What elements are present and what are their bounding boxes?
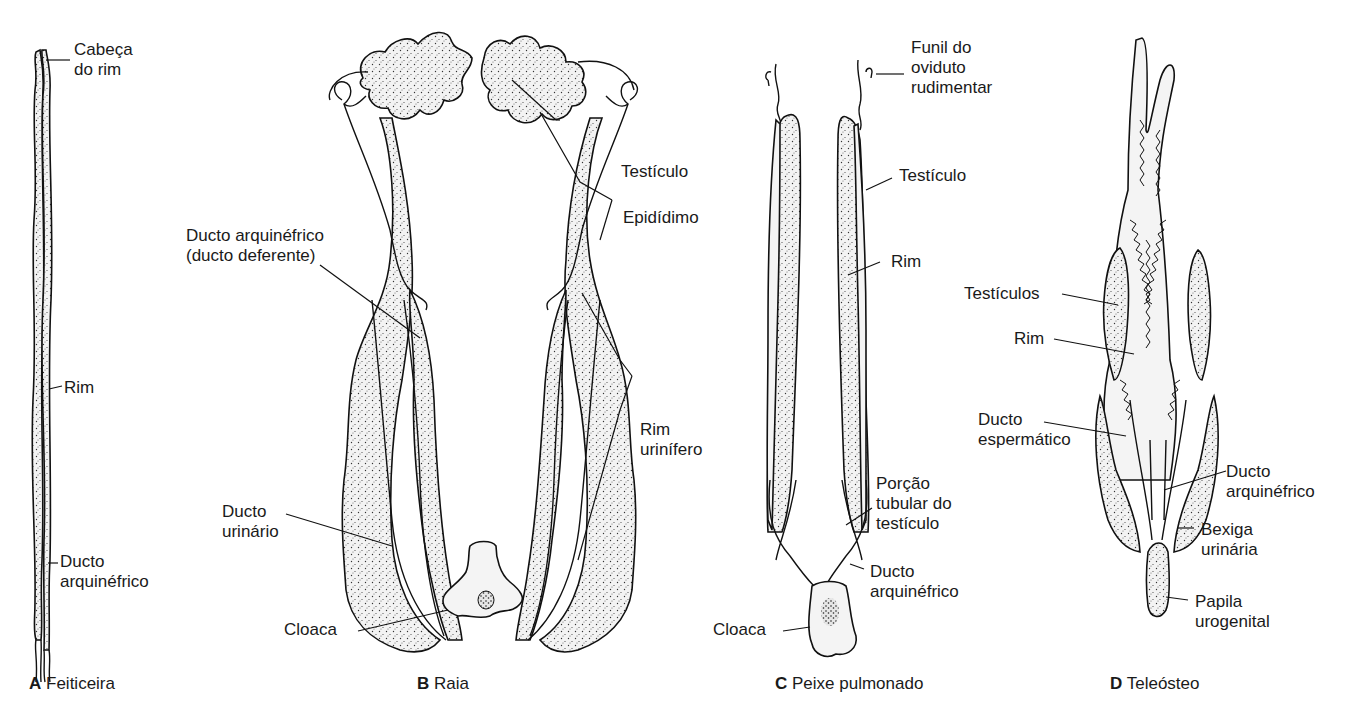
label-line: Cabeça: [74, 40, 133, 60]
label-line: Cloaca: [284, 620, 337, 640]
caption-c: C Peixe pulmonado: [775, 674, 923, 694]
label-line: tubular do: [876, 494, 952, 514]
label-line: Testículo: [899, 166, 966, 186]
label-line: Ducto: [60, 552, 149, 572]
caption-b: B Raia: [417, 674, 469, 694]
label-b-ducto-arquinefrico: Ducto arquinéfrico (ducto deferente): [186, 226, 324, 266]
lungfish-cloaca-opening: [821, 598, 839, 626]
ray-kidney-right-inner: [516, 290, 566, 640]
label-d-ducto-arquinefrico: Ducto arquinéfrico: [1226, 462, 1315, 502]
label-a-rim: Rim: [64, 378, 94, 398]
hagfish-kidney-right: [42, 50, 52, 650]
label-line: espermático: [978, 430, 1071, 450]
caption-a: A Feiticeira: [29, 674, 115, 694]
caption-d: D Teleósteo: [1110, 674, 1199, 694]
label-b-ducto-urinario: Ducto urinário: [222, 502, 279, 542]
label-line: Rim: [640, 420, 702, 440]
lungfish-oviduct-right: [858, 60, 861, 130]
panel-d-drawing: [1044, 38, 1226, 616]
label-c-cloaca: Cloaca: [713, 620, 766, 640]
label-c-porcao-tubular: Porção tubular do testículo: [876, 474, 952, 534]
caption-name: Peixe pulmonado: [792, 674, 923, 693]
caption-letter: D: [1110, 674, 1122, 693]
label-line: Funil do: [911, 38, 992, 58]
label-c-ducto-arquinefrico: Ducto arquinéfrico: [870, 562, 959, 602]
label-line: rudimentar: [911, 78, 992, 98]
label-line: urinífero: [640, 440, 702, 460]
label-c-testiculo: Testículo: [899, 166, 966, 186]
label-line: Ducto arquinéfrico: [186, 226, 324, 246]
label-line: urinária: [1201, 540, 1258, 560]
teleost-testis-right: [1188, 250, 1210, 380]
label-line: Testículo: [621, 162, 688, 182]
label-b-testiculo: Testículo: [621, 162, 688, 182]
label-d-rim: Rim: [1014, 329, 1044, 349]
label-line: arquinéfrico: [60, 572, 149, 592]
label-c-rim: Rim: [891, 252, 921, 272]
label-line: Ducto: [1226, 462, 1315, 482]
caption-name: Raia: [434, 674, 469, 693]
label-b-epididimo: Epidídimo: [623, 208, 699, 228]
teleost-papilla: [1147, 543, 1170, 616]
label-d-ducto-espermatico: Ducto espermático: [978, 410, 1071, 450]
label-line: Rim: [891, 252, 921, 272]
label-b-rim-urinifero: Rim urinífero: [640, 420, 702, 460]
label-d-papila-urogenital: Papila urogenital: [1195, 592, 1270, 632]
lungfish-funnel-right: [866, 68, 872, 78]
label-line: urogenital: [1195, 612, 1270, 632]
label-line: Cloaca: [713, 620, 766, 640]
label-line: Epidídimo: [623, 208, 699, 228]
ray-testis-right: [482, 36, 586, 123]
label-line: Ducto: [222, 502, 279, 522]
label-b-cloaca: Cloaca: [284, 620, 337, 640]
label-line: Ducto: [870, 562, 959, 582]
label-line: testículo: [876, 514, 952, 534]
panel-b-drawing: [286, 32, 637, 652]
ray-cloaca-opening: [478, 591, 494, 609]
label-line: do rim: [74, 60, 133, 80]
label-line: arquinéfrico: [1226, 482, 1315, 502]
anatomy-figure: [0, 0, 1353, 718]
caption-name: Feiticeira: [46, 674, 115, 693]
label-line: urinário: [222, 522, 279, 542]
label-line: Porção: [876, 474, 952, 494]
label-a-ducto-arquinefrico: Ducto arquinéfrico: [60, 552, 149, 592]
label-a-cabeca-do-rim: Cabeça do rim: [74, 40, 133, 80]
label-line: Ducto: [978, 410, 1071, 430]
label-line: Bexiga: [1201, 520, 1258, 540]
label-d-bexiga-urinaria: Bexiga urinária: [1201, 520, 1258, 560]
caption-letter: C: [775, 674, 787, 693]
label-c-funil-do-oviduto: Funil do oviduto rudimentar: [911, 38, 992, 98]
label-d-testiculos: Testículos: [964, 284, 1040, 304]
ray-efferent-right: [578, 61, 634, 90]
lungfish-funnel-left: [766, 72, 771, 86]
label-line: (ducto deferente): [186, 246, 324, 266]
caption-letter: B: [417, 674, 429, 693]
label-line: Rim: [1014, 329, 1044, 349]
label-line: oviduto: [911, 58, 992, 78]
caption-letter: A: [29, 674, 41, 693]
label-line: arquinéfrico: [870, 582, 959, 602]
ray-testis-left: [360, 32, 472, 118]
label-line: Papila: [1195, 592, 1270, 612]
caption-name: Teleósteo: [1127, 674, 1200, 693]
label-line: Rim: [64, 378, 94, 398]
label-line: Testículos: [964, 284, 1040, 304]
